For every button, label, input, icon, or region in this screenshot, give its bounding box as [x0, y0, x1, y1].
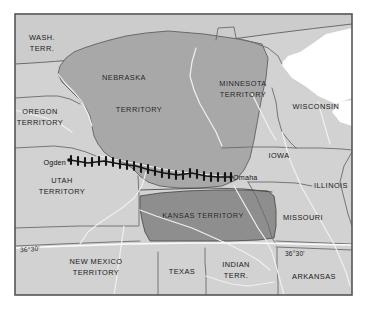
city-label-omaha: Omaha: [233, 173, 258, 182]
railroad-terminus-ogden: [67, 158, 71, 162]
map-graphic: [0, 0, 367, 309]
latitude-label-east: 36°30': [285, 250, 305, 257]
kansas-territory-shape: [140, 190, 276, 241]
city-label-ogden: Ogden: [43, 158, 66, 167]
historical-map-figure: WASH. TERR. OREGON TERRITORY NEBRASKA TE…: [0, 0, 367, 309]
